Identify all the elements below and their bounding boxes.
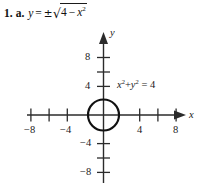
- y-tick-label-pos8: 8: [85, 52, 90, 63]
- problem-statement: 1.a.y=±√4−x2: [4, 4, 204, 24]
- y-tick-label-neg8: −8: [80, 167, 91, 178]
- x-axis-label: x: [189, 110, 194, 121]
- radical-expression: √4−x2: [53, 4, 87, 21]
- y-tick-label-neg4: −4: [80, 138, 91, 149]
- problem-number: 1.: [4, 7, 13, 19]
- x-tick-label-pos4: 4: [137, 125, 142, 136]
- problem-part-letter: a.: [16, 7, 25, 19]
- curve-equation-label: x2+y2 = 4: [117, 80, 155, 91]
- equation-lhs: y: [28, 7, 33, 19]
- x-tick-label-neg4: −4: [60, 125, 71, 136]
- coordinate-graph: x y −8 −4 4 8 8 4 −4 −8 x2+y2 = 4: [0, 22, 206, 183]
- radicand-operator: −: [69, 6, 76, 18]
- radicand-exponent: 2: [82, 5, 86, 13]
- curve-label-value: 4: [150, 79, 155, 90]
- plus-minus-sign: ±: [44, 7, 53, 19]
- y-axis-arrow-icon: [99, 32, 108, 44]
- radicand: 4−x2: [60, 3, 87, 20]
- curve-label-y-exponent: 2: [136, 78, 139, 85]
- graph-svg: [0, 22, 206, 183]
- y-tick-label-pos4: 4: [85, 81, 90, 92]
- radicand-constant: 4: [61, 6, 67, 18]
- curve-label-equals: =: [141, 79, 147, 90]
- x-tick-label-neg8: −8: [24, 125, 35, 136]
- equation-equals: =: [35, 7, 42, 19]
- x-tick-label-pos8: 8: [173, 125, 178, 136]
- y-axis-label: y: [110, 28, 115, 39]
- figure-page: 1.a.y=±√4−x2: [0, 0, 206, 183]
